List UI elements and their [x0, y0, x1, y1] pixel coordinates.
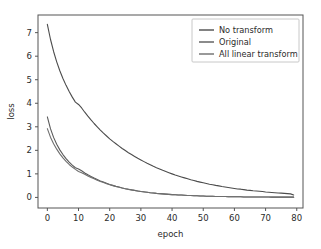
x-tick-label: 60 [229, 213, 240, 223]
y-tick-label: 3 [27, 122, 32, 132]
y-tick-label: 7 [27, 28, 32, 38]
y-tick-label: 0 [27, 192, 32, 202]
chart-figure: 01234567 01020304050607080 epoch loss No… [0, 0, 321, 249]
legend-label-0: No transform [219, 25, 273, 35]
legend-label-2: All linear transform [219, 49, 298, 59]
x-tick-label: 50 [198, 213, 209, 223]
y-tick-label: 2 [27, 145, 32, 155]
y-tick-label: 4 [27, 98, 32, 108]
x-tick-label: 0 [45, 213, 50, 223]
y-tick-label: 1 [27, 169, 32, 179]
x-axis-title: epoch [158, 229, 184, 239]
legend-label-1: Original [219, 37, 251, 47]
x-tick-label: 20 [104, 213, 115, 223]
x-tick-label: 40 [167, 213, 178, 223]
y-tick-label: 5 [27, 75, 32, 85]
x-tick-label: 10 [73, 213, 84, 223]
chart-legend: No transformOriginalAll linear transform [192, 19, 299, 62]
x-tick-label: 30 [135, 213, 146, 223]
y-axis-title: loss [6, 103, 16, 120]
x-tick-label: 80 [291, 213, 302, 223]
x-tick-label: 70 [260, 213, 271, 223]
y-tick-label: 6 [27, 51, 32, 61]
loss-vs-epoch-line-chart: 01234567 01020304050607080 epoch loss No… [0, 0, 321, 249]
